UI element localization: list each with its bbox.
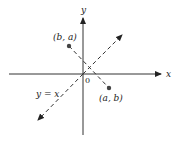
point-ba-marker <box>67 44 71 48</box>
line-y-equals-x-upper <box>83 35 122 74</box>
point-ab-label: (a, b) <box>99 93 123 103</box>
point-ba-label: (b, a) <box>53 32 77 42</box>
origin-label: 0 <box>85 76 90 85</box>
y-axis-label: y <box>80 5 87 15</box>
diagram-canvas: y x 0 (b, a) (a, b) y = x <box>0 0 179 143</box>
x-axis-label: x <box>166 69 171 79</box>
line-y-equals-x-label: y = x <box>35 89 59 99</box>
point-ab-marker <box>107 86 111 90</box>
